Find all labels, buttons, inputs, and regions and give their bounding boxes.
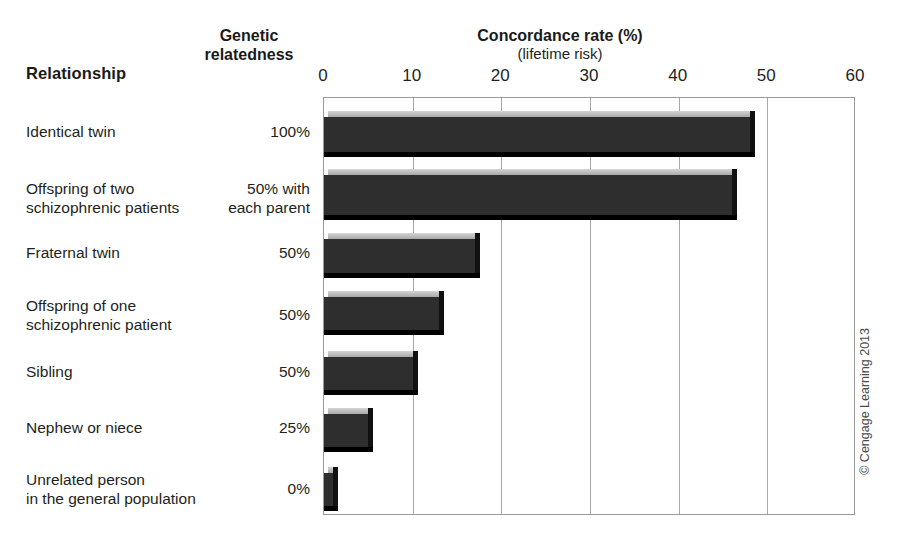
row-genetic-relatedness-3: 50% [186,305,310,324]
bar-side-face [439,291,444,330]
bar-2 [324,233,480,278]
bar-bottom-shadow [324,330,444,335]
bar-side-face [732,169,737,215]
bar-front-face [324,297,439,330]
label-line: schizophrenic patient [26,315,206,334]
bar-front-face [324,117,750,152]
row-relationship-label-3: Offspring of oneschizophrenic patient [26,296,206,334]
x-tick-label-10: 10 [402,66,421,86]
bar-front-face [324,473,333,506]
gridline-30 [590,98,591,514]
label-line: in the general population [26,489,206,508]
row-genetic-relatedness-6: 0% [186,479,310,498]
bar-6 [324,467,338,511]
gridline-20 [501,98,502,514]
bar-5 [324,408,373,452]
row-relationship-label-4: Sibling [26,362,206,381]
bar-bottom-shadow [324,390,418,395]
bar-bottom-shadow [324,447,373,452]
x-tick-label-20: 20 [491,66,510,86]
row-relationship-label-2: Fraternal twin [26,243,206,262]
bar-side-face [475,233,480,273]
genetic-line: 50% [186,305,310,324]
row-genetic-relatedness-2: 50% [186,243,310,262]
x-tick-label-50: 50 [757,66,776,86]
label-line: Offspring of one [26,296,206,315]
row-relationship-label-6: Unrelated personin the general populatio… [26,470,206,508]
genetic-line: each parent [186,198,310,217]
bar-bottom-shadow [324,506,338,511]
x-tick-label-30: 30 [580,66,599,86]
genetic-line: 0% [186,479,310,498]
bar-side-face [750,111,755,152]
bar-bottom-shadow [324,152,755,157]
bar-front-face [324,239,475,273]
bar-side-face [368,408,373,447]
label-line: Fraternal twin [26,243,206,262]
genetic-header-line-1: Genetic [188,26,310,45]
chart-title: Concordance rate (%) [400,26,720,45]
label-line: Nephew or niece [26,418,206,437]
gridline-40 [679,98,680,514]
genetic-line: 100% [186,122,310,141]
x-tick-label-60: 60 [846,66,865,86]
genetic-line: 50% [186,362,310,381]
label-line: Unrelated person [26,470,206,489]
label-line: Identical twin [26,122,206,141]
copyright-credit: © Cengage Learning 2013 [858,328,872,475]
genetic-line: 50% with [186,179,310,198]
relationship-column-header: Relationship [26,64,126,83]
row-relationship-label-0: Identical twin [26,122,206,141]
x-tick-label-40: 40 [668,66,687,86]
chart-title-block: Concordance rate (%) (lifetime risk) [400,26,720,63]
bar-bottom-shadow [324,273,480,278]
row-genetic-relatedness-5: 25% [186,418,310,437]
label-line: Offspring of two [26,179,206,198]
row-genetic-relatedness-4: 50% [186,362,310,381]
bar-0 [324,111,755,157]
row-genetic-relatedness-1: 50% witheach parent [186,179,310,217]
bar-4 [324,351,418,395]
bar-1 [324,169,737,220]
genetic-line: 25% [186,418,310,437]
genetic-header-line-2: relatedness [188,45,310,64]
row-relationship-label-1: Offspring of twoschizophrenic patients [26,179,206,217]
plot-area [323,97,855,515]
bar-3 [324,291,444,335]
bar-side-face [413,351,418,390]
chart-subtitle: (lifetime risk) [400,45,720,63]
label-line: schizophrenic patients [26,198,206,217]
bar-side-face [333,467,338,506]
genetic-relatedness-column-header: Genetic relatedness [188,26,310,64]
genetic-line: 50% [186,243,310,262]
row-relationship-label-5: Nephew or niece [26,418,206,437]
label-line: Sibling [26,362,206,381]
bar-bottom-shadow [324,215,737,220]
row-genetic-relatedness-0: 100% [186,122,310,141]
bar-front-face [324,175,732,215]
bar-front-face [324,414,368,447]
x-tick-label-0: 0 [318,66,327,86]
gridline-50 [767,98,768,514]
bar-front-face [324,357,413,390]
